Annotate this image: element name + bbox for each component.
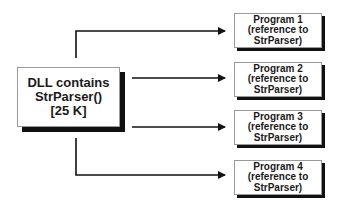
source-line-1: DLL contains [27, 76, 109, 90]
program-4-box: Program 4 (reference to StrParser) [234, 160, 322, 195]
program-3-line-3: StrParser) [248, 133, 309, 144]
dll-source-box: DLL contains StrParser() [25 K] [17, 67, 120, 127]
program-4-line-3: StrParser) [248, 183, 309, 194]
program-1-box: Program 1 (reference to StrParser) [234, 13, 322, 48]
source-line-3: [25 K] [27, 104, 109, 118]
arrow-to-program-4 [76, 138, 225, 175]
arrow-to-program-1 [76, 31, 225, 58]
program-1-line-3: StrParser) [248, 36, 309, 47]
program-3-box: Program 3 (reference to StrParser) [234, 110, 322, 145]
program-2-box: Program 2 (reference to StrParser) [234, 62, 322, 97]
source-line-2: StrParser() [27, 90, 109, 104]
program-2-line-3: StrParser) [248, 85, 309, 96]
